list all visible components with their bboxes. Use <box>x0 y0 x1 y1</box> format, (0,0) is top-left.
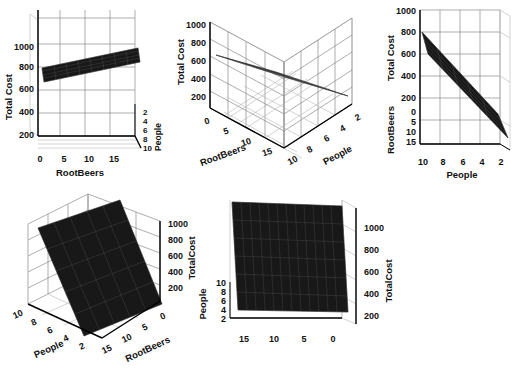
panel-3-surface <box>422 32 508 138</box>
x-tick: 0 <box>330 334 335 344</box>
panel-5-y-ticks: 10 8 6 4 2 <box>216 278 226 324</box>
y-tick: 4 <box>338 123 347 134</box>
y-tick: 2 <box>143 108 148 117</box>
panel-3-x-ticks: 10 8 6 4 2 <box>418 157 504 167</box>
x-tick: 10 <box>11 308 24 321</box>
panel-3-y2-axis-title: RootBeers <box>385 106 396 154</box>
x-tick: 15 <box>261 146 274 159</box>
y-tick: 6 <box>322 133 331 144</box>
y-tick: 6 <box>143 126 148 135</box>
panel-2-z-ticks: 1000 800 600 400 200 <box>186 20 206 102</box>
panel-5-surface <box>232 202 348 312</box>
panel-1-z-axis-title: Total Cost <box>3 73 14 120</box>
x-tick: 6 <box>460 157 465 167</box>
z-tick: 1000 <box>14 42 34 52</box>
y-tick: 0 <box>158 311 167 322</box>
z-tick: 600 <box>168 251 183 261</box>
y-tick: 8 <box>305 144 314 155</box>
x-tick: 4 <box>479 157 484 167</box>
z-tick: 1000 <box>186 20 206 30</box>
panel-2-y-axis-title: People <box>321 143 354 167</box>
panel-5-z-axis-title: TotalCost <box>383 259 394 303</box>
y-tick: 10 <box>120 332 133 345</box>
x-tick: 15 <box>109 154 119 164</box>
panel-3-z-axis-title: Total Cost <box>385 34 396 81</box>
x-tick: 0 <box>203 116 211 127</box>
panel-4-svg: 1000 800 600 400 200 TotalCost 10 8 6 4 … <box>2 186 202 370</box>
y-tick: 2 <box>353 112 362 123</box>
x-tick: 0 <box>37 154 42 164</box>
panel-2-svg: 1000 800 600 400 200 Total Cost 0 5 10 1… <box>176 0 366 180</box>
x-tick: 5 <box>301 334 306 344</box>
plot-panel-2: 1000 800 600 400 200 Total Cost 0 5 10 1… <box>176 0 366 180</box>
x-tick: 2 <box>498 157 503 167</box>
panel-5-x-ticks: 15 10 5 0 <box>239 334 336 344</box>
y-tick: 4 <box>143 117 148 126</box>
y-tick: 10 <box>143 144 152 153</box>
panel-1-y-ticks: 2 4 6 8 10 <box>143 108 152 153</box>
x-tick: 4 <box>61 333 70 344</box>
z-tick: 800 <box>191 38 206 48</box>
z-tick: 800 <box>401 27 416 37</box>
z-tick: 400 <box>364 289 379 299</box>
x-tick: 2 <box>77 341 86 352</box>
z-tick: 400 <box>191 74 206 84</box>
y-tick: 2 <box>221 314 226 324</box>
y-tick: 8 <box>143 135 148 144</box>
z-tick: 1000 <box>396 6 416 16</box>
z-tick: 200 <box>168 283 183 293</box>
y2-tick: 0 <box>411 107 416 117</box>
y2-tick: 10 <box>406 127 416 137</box>
x-tick: 5 <box>222 126 230 137</box>
plot-panel-5: 10 8 6 4 2 People 1000 800 600 400 200 T… <box>196 186 396 370</box>
panel-2-x-axis-title: RootBeers <box>198 141 247 168</box>
x-tick: 6 <box>45 325 54 336</box>
z-tick: 400 <box>401 71 416 81</box>
panel-5-y-axis-title: People <box>197 288 208 319</box>
panel-3-z-ticks: 1000 800 600 400 200 <box>396 6 416 103</box>
y-tick: 15 <box>100 343 113 356</box>
panel-2-grid <box>210 18 352 158</box>
z-tick: 1000 <box>364 223 384 233</box>
y2-tick: 5 <box>411 117 416 127</box>
panel-1-x-axis-title: RootBeers <box>56 167 104 178</box>
panel-1-svg: 1000 800 600 400 200 Total Cost 0 5 10 1… <box>0 2 180 180</box>
x-tick: 10 <box>269 334 279 344</box>
z-tick: 800 <box>19 62 34 72</box>
panel-1-y-axis-title: People <box>153 123 163 151</box>
z-tick: 600 <box>401 49 416 59</box>
z-tick: 600 <box>191 56 206 66</box>
x-tick: 5 <box>61 154 66 164</box>
z-tick: 200 <box>364 311 379 321</box>
panel-1-z-ticks: 1000 800 600 400 200 <box>14 42 34 140</box>
plot-panel-3: 1000 800 600 400 200 Total Cost 0 5 10 1… <box>368 2 526 180</box>
plot-panel-4: 1000 800 600 400 200 TotalCost 10 8 6 4 … <box>2 186 202 370</box>
panel-1-x-ticks: 0 5 10 15 <box>37 154 119 164</box>
plot-panel-1: 1000 800 600 400 200 Total Cost 0 5 10 1… <box>0 2 180 180</box>
panel-4-x-axis-title: People <box>32 337 65 360</box>
panel-3-x-axis-title: People <box>446 169 477 180</box>
z-tick: 400 <box>19 107 34 117</box>
z-tick: 600 <box>364 267 379 277</box>
x-tick: 10 <box>84 154 94 164</box>
x-tick: 8 <box>440 157 445 167</box>
y2-tick: 15 <box>406 137 416 147</box>
x-tick: 15 <box>239 334 249 344</box>
z-tick: 800 <box>364 245 379 255</box>
panel-3-svg: 1000 800 600 400 200 Total Cost 0 5 10 1… <box>368 2 526 180</box>
x-tick: 10 <box>418 157 428 167</box>
z-tick: 200 <box>191 92 206 102</box>
z-tick: 400 <box>168 267 183 277</box>
z-tick: 1000 <box>168 219 188 229</box>
z-tick: 200 <box>401 93 416 103</box>
panel-5-z-ticks: 1000 800 600 400 200 <box>364 223 384 321</box>
z-tick: 200 <box>19 130 34 140</box>
panel-5-svg: 10 8 6 4 2 People 1000 800 600 400 200 T… <box>196 186 396 370</box>
panel-3-y2-ticks: 0 5 10 15 <box>406 107 416 147</box>
z-tick: 800 <box>168 235 183 245</box>
x-tick: 8 <box>29 317 38 328</box>
z-tick: 600 <box>19 84 34 94</box>
panel-4-surface <box>38 200 162 336</box>
y-tick: 5 <box>140 322 149 333</box>
panel-1-surface <box>42 48 140 82</box>
